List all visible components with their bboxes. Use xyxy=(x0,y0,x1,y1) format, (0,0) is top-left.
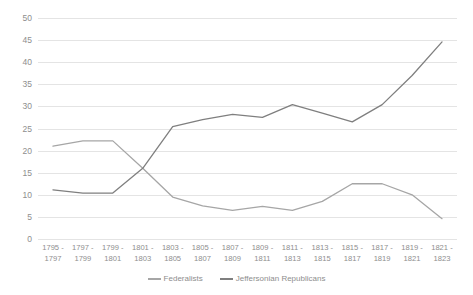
line-chart: 05101520253035404550 1795 -17971797 -179… xyxy=(0,0,473,295)
plot-area xyxy=(38,18,457,239)
x-tick-label: 1817 -1819 xyxy=(367,243,397,269)
y-tick-label: 50 xyxy=(4,14,32,23)
y-tick-label: 10 xyxy=(4,190,32,199)
y-tick-label: 20 xyxy=(4,146,32,155)
x-tick-label: 1799 -1801 xyxy=(98,243,128,269)
legend-label: Jeffersonian Republicans xyxy=(236,274,326,284)
series-line-federalists xyxy=(53,141,442,219)
x-tick-label: 1811 -1813 xyxy=(277,243,307,269)
y-tick-label: 15 xyxy=(4,168,32,177)
x-tick-label: 1797 -1799 xyxy=(68,243,98,269)
x-tick-label: 1801 -1803 xyxy=(128,243,158,269)
x-tick-label: 1795 -1797 xyxy=(38,243,68,269)
legend-entry-jeffersonian-republicans[interactable]: Jeffersonian Republicans xyxy=(220,274,326,284)
x-tick-label: 1815 -1817 xyxy=(337,243,367,269)
legend-swatch-icon xyxy=(220,278,233,280)
gridline xyxy=(38,239,457,240)
legend-swatch-icon xyxy=(148,278,161,280)
chart-legend: FederalistsJeffersonian Republicans xyxy=(0,272,473,286)
x-axis: 1795 -17971797 -17991799 -18011801 -1803… xyxy=(38,243,457,269)
y-tick-label: 5 xyxy=(4,212,32,221)
x-tick-label: 1819 -1821 xyxy=(397,243,427,269)
x-tick-label: 1803 -1805 xyxy=(158,243,188,269)
legend-entry-federalists[interactable]: Federalists xyxy=(148,274,203,284)
x-tick-label: 1807 -1809 xyxy=(218,243,248,269)
y-tick-label: 25 xyxy=(4,124,32,133)
y-tick-label: 45 xyxy=(4,36,32,45)
x-tick-label: 1821 -1823 xyxy=(427,243,457,269)
y-tick-label: 30 xyxy=(4,102,32,111)
x-tick-label: 1809 -1811 xyxy=(247,243,277,269)
x-tick-label: 1813 -1815 xyxy=(307,243,337,269)
x-tick-label: 1805 -1807 xyxy=(188,243,218,269)
series-line-jeffersonian-republicans xyxy=(53,42,442,193)
series-layer xyxy=(38,18,457,239)
y-tick-label: 35 xyxy=(4,80,32,89)
legend-label: Federalists xyxy=(164,274,203,284)
y-tick-label: 0 xyxy=(4,235,32,244)
y-tick-label: 40 xyxy=(4,58,32,67)
y-axis: 05101520253035404550 xyxy=(0,18,32,239)
